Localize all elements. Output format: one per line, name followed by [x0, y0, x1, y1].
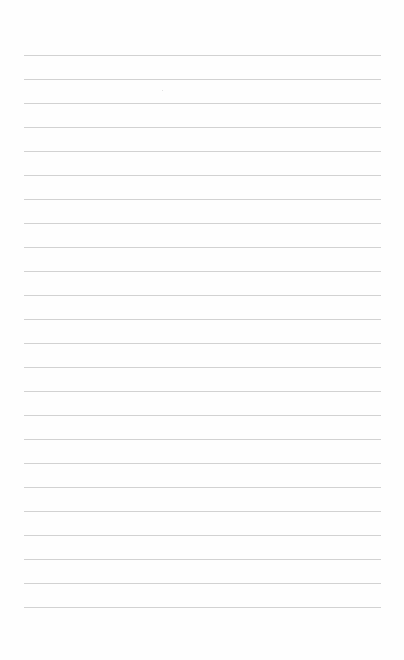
rule-line — [24, 199, 381, 200]
rule-line — [24, 151, 381, 152]
ruled-lines — [24, 0, 381, 660]
rule-line — [24, 175, 381, 176]
lined-paper-page — [0, 0, 404, 660]
rule-line — [24, 535, 381, 536]
rule-line — [24, 343, 381, 344]
rule-line — [24, 559, 381, 560]
rule-line — [24, 415, 381, 416]
rule-line — [24, 367, 381, 368]
rule-line — [24, 511, 381, 512]
rule-line — [24, 271, 381, 272]
rule-line — [24, 583, 381, 584]
rule-line — [24, 463, 381, 464]
rule-line — [24, 319, 381, 320]
rule-line — [24, 487, 381, 488]
rule-line — [24, 247, 381, 248]
rule-line — [24, 439, 381, 440]
rule-line — [24, 607, 381, 608]
rule-line — [24, 391, 381, 392]
rule-line — [24, 103, 381, 104]
rule-line — [24, 223, 381, 224]
rule-line — [24, 295, 381, 296]
paper-speck — [162, 90, 163, 91]
rule-line — [24, 79, 381, 80]
rule-line — [24, 127, 381, 128]
rule-line — [24, 55, 381, 56]
